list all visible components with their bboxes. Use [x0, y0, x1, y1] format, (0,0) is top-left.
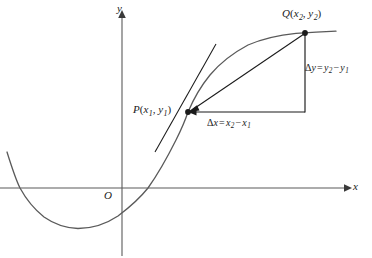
tangent-line: [155, 44, 216, 152]
point-label-p: P(x1, y1): [133, 104, 171, 117]
delta-x-equals: =: [218, 117, 226, 128]
point-label-q-x: x: [294, 7, 299, 19]
point-marker-q: [302, 30, 308, 36]
point-label-q: Q(x2, y2): [282, 8, 321, 21]
x-axis-label: x: [353, 181, 358, 192]
point-label-p-name: P: [133, 103, 140, 115]
y-axis-label: y: [117, 3, 122, 14]
delta-x-label: Δx=x2−x1: [207, 118, 251, 131]
delta-x-leg: [188, 109, 305, 116]
x-axis-arrowhead-icon: [344, 184, 352, 192]
delta-y-label: Δy=y2−y1: [305, 63, 349, 76]
point-label-p-close: ): [167, 103, 171, 115]
y-axis: [118, 10, 126, 256]
point-label-q-close: ): [318, 7, 322, 19]
origin-label: O: [104, 190, 112, 201]
point-marker-p: [185, 109, 191, 115]
figure-canvas: [0, 0, 372, 258]
secant-tangent-figure: y x O P(x1, y1) Q(x2, y2) Δy=y2−y1 Δx=x2…: [0, 0, 372, 258]
function-curve: [7, 31, 336, 228]
delta-y-term2-sub: 1: [345, 67, 349, 75]
delta-y-equals: =: [316, 62, 324, 73]
delta-x-term2-sub: 1: [247, 122, 251, 130]
x-axis: [0, 184, 352, 192]
point-label-q-name: Q: [282, 7, 290, 19]
